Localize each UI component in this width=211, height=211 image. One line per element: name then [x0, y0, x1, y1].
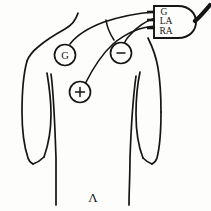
connector-pin-label-ra: RA: [159, 26, 172, 36]
trunk-right-contour: [129, 76, 136, 205]
lead-wire-crossing-stub: [106, 20, 114, 40]
trunk-left-contour: [51, 74, 56, 205]
right-cuff-contour: [143, 158, 152, 164]
connector-body[interactable]: G LA RA: [147, 5, 210, 38]
ecg-electrode-placement-diagram: G LA RA G Λ: [0, 0, 211, 211]
electrode-negative[interactable]: [111, 43, 132, 64]
right-shoulder-contour: [148, 38, 161, 112]
left-arm-outer-contour: [22, 61, 33, 164]
bottom-center-mark: Λ: [88, 190, 98, 205]
right-arm-outer-contour: [152, 112, 161, 164]
left-cuff-contour: [33, 157, 44, 164]
electrode-ground[interactable]: G: [55, 45, 76, 66]
connector-pin-label-la: LA: [160, 16, 173, 26]
right-armpit-contour: [136, 72, 143, 158]
connector-output-cable: [195, 5, 210, 21]
left-armpit-contour: [44, 73, 51, 157]
electrode-ground-label: G: [61, 50, 69, 61]
torso-outline: [22, 13, 161, 205]
electrode-positive[interactable]: [70, 82, 91, 103]
diagram-figure: G LA RA G Λ: [0, 0, 211, 211]
